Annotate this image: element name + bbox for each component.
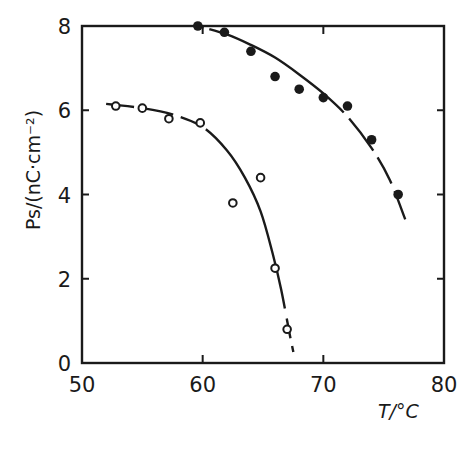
x-tick-label: 80 — [431, 373, 458, 397]
chart: 5060708002468 T/°C Ps/(nC·cm⁻²) — [0, 0, 469, 451]
x-axis-title: T/°C — [378, 400, 420, 422]
open-data-point — [283, 326, 291, 334]
filled-data-point — [393, 190, 403, 200]
open-data-point — [196, 119, 204, 127]
x-tick-label: 50 — [69, 373, 96, 397]
open-series-fit-curve — [106, 104, 294, 357]
filled-data-point — [220, 28, 230, 38]
y-tick-label: 4 — [58, 184, 71, 208]
data-points — [112, 21, 403, 333]
filled-series-fit-curve — [198, 26, 406, 220]
plot-frame — [82, 26, 444, 363]
filled-data-point — [246, 46, 256, 56]
filled-data-point — [367, 135, 377, 145]
open-data-point — [112, 102, 120, 110]
y-tick-label: 6 — [58, 99, 71, 123]
axis-ticks — [82, 26, 444, 363]
filled-data-point — [270, 72, 280, 82]
x-tick-label: 70 — [310, 373, 337, 397]
fit-curves — [106, 26, 405, 357]
open-data-point — [229, 199, 237, 207]
filled-data-point — [343, 101, 353, 111]
y-tick-label: 8 — [58, 15, 71, 39]
y-axis-title: Ps/(nC·cm⁻²) — [22, 110, 44, 230]
y-tick-label: 2 — [58, 268, 71, 292]
open-data-point — [257, 174, 265, 182]
filled-data-point — [294, 84, 304, 94]
plot-border — [82, 26, 444, 363]
y-tick-label: 0 — [58, 352, 71, 376]
filled-data-point — [193, 21, 203, 31]
open-data-point — [271, 264, 279, 272]
open-data-point — [165, 115, 173, 123]
open-data-point — [139, 104, 147, 112]
filled-data-point — [319, 93, 329, 103]
x-tick-label: 60 — [189, 373, 216, 397]
